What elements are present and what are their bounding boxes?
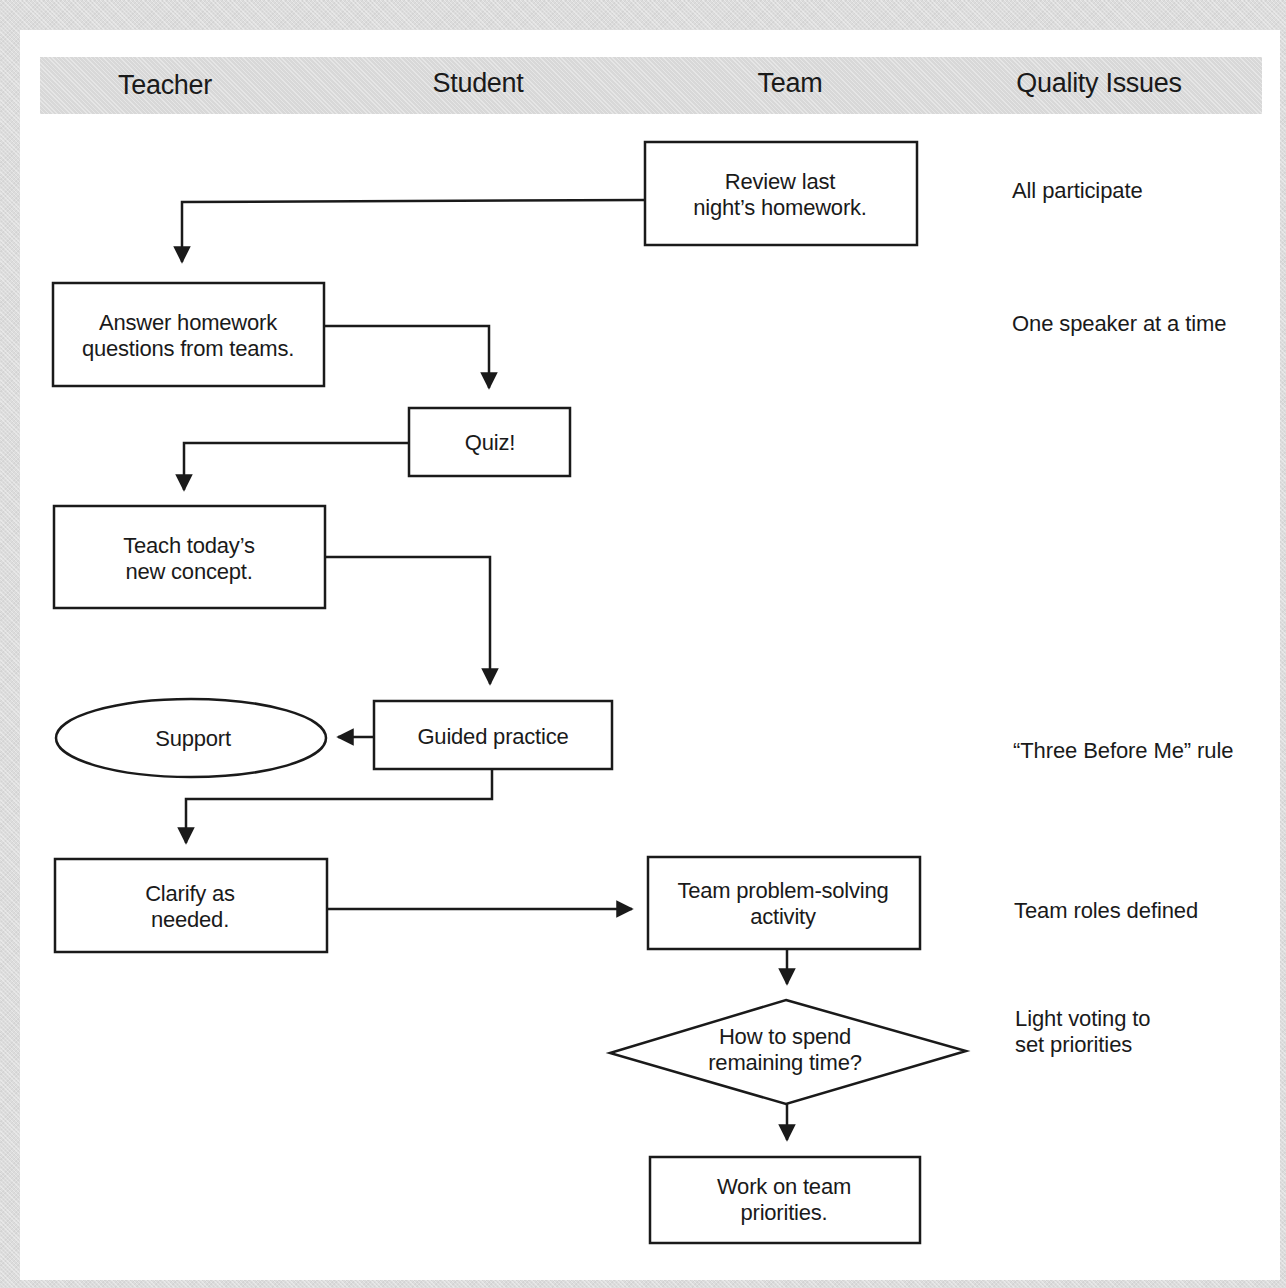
node-team-activity: Team problem-solvingactivity bbox=[677, 878, 888, 930]
node-guided-practice: Guided practice bbox=[417, 724, 568, 750]
node-review: Review lastnight’s homework. bbox=[693, 169, 867, 221]
node-teach: Teach today’snew concept. bbox=[123, 533, 255, 585]
edge-review-to-answer bbox=[182, 200, 645, 262]
edge-teach-to-guided bbox=[325, 557, 490, 684]
quality-three-before-me: “Three Before Me” rule bbox=[1013, 738, 1233, 764]
edge-guided-to-clarify bbox=[186, 769, 492, 843]
quality-one-speaker: One speaker at a time bbox=[1012, 311, 1226, 337]
node-clarify: Clarify asneeded. bbox=[145, 881, 235, 933]
node-answer: Answer homeworkquestions from teams. bbox=[82, 310, 294, 362]
quality-team-roles: Team roles defined bbox=[1014, 898, 1198, 924]
node-support: Support bbox=[155, 726, 231, 752]
node-decision: How to spendremaining time? bbox=[708, 1024, 862, 1076]
node-quiz: Quiz! bbox=[465, 430, 515, 456]
edge-quiz-to-teach bbox=[184, 443, 409, 490]
edge-answer-to-quiz bbox=[324, 326, 489, 388]
quality-all-participate: All participate bbox=[1012, 178, 1143, 204]
node-work: Work on teampriorities. bbox=[717, 1174, 851, 1226]
quality-light-voting: Light voting toset priorities bbox=[1015, 1006, 1151, 1058]
